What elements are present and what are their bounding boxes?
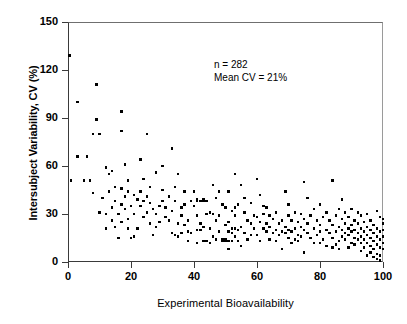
y-axis-title: Intersubject Variability, CV (%): [22, 18, 44, 268]
y-tick-mark: [62, 214, 68, 215]
x-tick-mark: [68, 262, 69, 268]
x-tick-mark: [131, 262, 132, 268]
y-tick-label: 120: [18, 64, 58, 75]
x-tick-mark: [383, 262, 384, 268]
y-tick-mark: [62, 22, 68, 23]
x-tick-label: 0: [48, 271, 88, 282]
chart-annotation: n = 282 Mean CV = 21%: [214, 58, 287, 84]
y-tick-mark: [62, 166, 68, 167]
x-tick-mark: [320, 262, 321, 268]
scatter-plot-figure: Intersubject Variability, CV (%) 1501209…: [0, 0, 407, 324]
y-tick-label: 30: [18, 208, 58, 219]
y-tick-label: 60: [18, 160, 58, 171]
annotation-mean-cv: Mean CV = 21%: [214, 71, 287, 84]
x-tick-mark: [257, 262, 258, 268]
y-tick-label: 150: [18, 16, 58, 27]
y-tick-mark: [62, 118, 68, 119]
y-tick-label: 0: [18, 256, 58, 267]
annotation-sample-size: n = 282: [214, 58, 287, 71]
x-axis-title: Experimental Bioavailability: [68, 297, 383, 309]
x-tick-label: 60: [237, 271, 277, 282]
x-tick-label: 40: [174, 271, 214, 282]
y-tick-label: 90: [18, 112, 58, 123]
x-tick-label: 20: [111, 271, 151, 282]
y-tick-mark: [62, 70, 68, 71]
x-tick-label: 100: [363, 271, 403, 282]
x-tick-label: 80: [300, 271, 340, 282]
x-tick-mark: [194, 262, 195, 268]
